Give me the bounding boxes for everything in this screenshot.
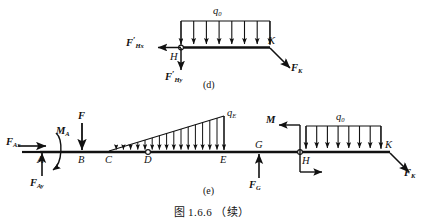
figure-container: q0 F′Hx H F′Hy K FK (d) FAx MA A FAy F B… <box>0 0 423 222</box>
label-qe-e: qE <box>227 108 236 119</box>
force-arrow-fk-d <box>270 48 290 68</box>
label-point-g-e: G <box>255 140 263 151</box>
figure-caption: 图 1.6.6 （续） <box>0 203 423 219</box>
label-q0-e: q0 <box>336 112 345 123</box>
label-point-b-e: B <box>78 155 84 166</box>
label-fay-e: FAy <box>30 178 44 189</box>
label-ma-e: MA <box>56 126 70 137</box>
label-point-k-e: K <box>385 140 392 151</box>
label-fk-e: FK <box>404 168 415 179</box>
panel-e-drawing <box>18 116 409 178</box>
label-fg-e: FG <box>249 180 261 191</box>
label-fhx-d: F′Hx <box>126 38 144 49</box>
label-point-k-d: K <box>268 36 275 47</box>
label-point-d-e: D <box>144 155 152 166</box>
label-f-e: F <box>78 111 85 122</box>
label-point-e-e: E <box>220 155 226 166</box>
load-arrows-d <box>181 21 270 44</box>
label-fhy-d: F′Hy <box>165 72 182 83</box>
label-q0-d: q0 <box>213 6 222 17</box>
label-m-e: M <box>266 115 275 126</box>
panel-label-e: (e) <box>203 186 214 196</box>
label-fk-d: FK <box>291 63 302 74</box>
label-point-a-e: A <box>37 155 43 166</box>
label-point-h-e: H <box>302 156 310 167</box>
label-point-c-e: C <box>105 155 112 166</box>
label-point-h-d: H <box>170 52 178 63</box>
panel-label-d: (d) <box>203 80 215 90</box>
load-arrows-e <box>306 126 381 148</box>
label-fax-e: FAx <box>6 137 21 148</box>
